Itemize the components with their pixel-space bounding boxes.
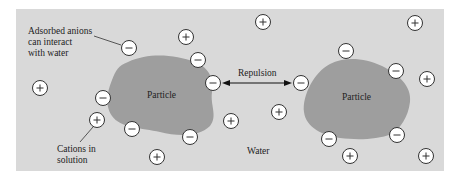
particle-left-label: Particle: [147, 90, 176, 100]
anion-minus-icon: [339, 44, 354, 59]
anion-minus-icon: [125, 122, 140, 137]
cation-plus-icon: [272, 105, 287, 120]
particle-right-label: Particle: [342, 92, 371, 102]
cation-plus-icon: [224, 114, 239, 129]
anion-minus-icon: [322, 132, 337, 147]
repulsion-label: Repulsion: [238, 68, 277, 78]
anion-minus-icon: [206, 76, 221, 91]
anion-minus-icon: [96, 91, 111, 106]
cation-plus-icon: [419, 149, 434, 164]
cation-plus-icon: [179, 30, 194, 45]
cation-plus-icon: [256, 15, 271, 30]
anion-minus-icon: [294, 76, 309, 91]
cation-plus-icon: [408, 16, 423, 31]
cation-plus-icon: [90, 113, 105, 128]
anion-minus-icon: [183, 130, 198, 145]
cation-plus-icon: [33, 81, 48, 96]
cation-plus-icon: [150, 150, 165, 165]
cation-plus-icon: [420, 72, 435, 87]
anion-minus-icon: [191, 53, 206, 68]
anion-minus-icon: [389, 64, 404, 79]
anion-minus-icon: [122, 41, 137, 56]
colloid-repulsion-diagram: Adsorbed anions can interact with water …: [0, 0, 457, 179]
water-label: Water: [247, 146, 270, 156]
anion-minus-icon: [390, 128, 405, 143]
cation-plus-icon: [343, 149, 358, 164]
